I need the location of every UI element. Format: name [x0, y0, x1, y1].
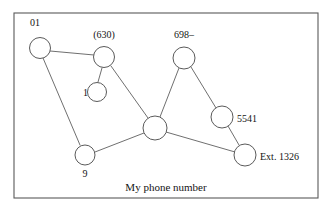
node-exchange: [173, 47, 195, 69]
node-hub: [143, 116, 167, 140]
node-label-trunk-prefix: 1: [83, 87, 88, 98]
diagram-frame: [14, 13, 318, 198]
node-trunk-prefix: [88, 83, 107, 102]
node-area-code: [94, 47, 115, 68]
node-label-extension: Ext. 1326: [260, 151, 299, 162]
figure-caption: My phone number: [125, 181, 207, 193]
node-label-country-code: 01: [30, 17, 40, 28]
node-label-area-code: (630): [93, 29, 115, 41]
phone-number-diagram: 01(630)19698–5541Ext. 1326 My phone numb…: [0, 0, 333, 211]
node-line-number: [211, 106, 233, 128]
node-label-long-distance: 9: [83, 168, 88, 179]
node-long-distance: [75, 145, 95, 165]
node-label-line-number: 5541: [237, 113, 257, 124]
node-label-exchange: 698–: [174, 29, 195, 40]
node-country-code: [30, 38, 51, 59]
phone-number-figure: 01(630)19698–5541Ext. 1326 My phone numb…: [0, 0, 333, 211]
node-extension: [234, 144, 256, 166]
